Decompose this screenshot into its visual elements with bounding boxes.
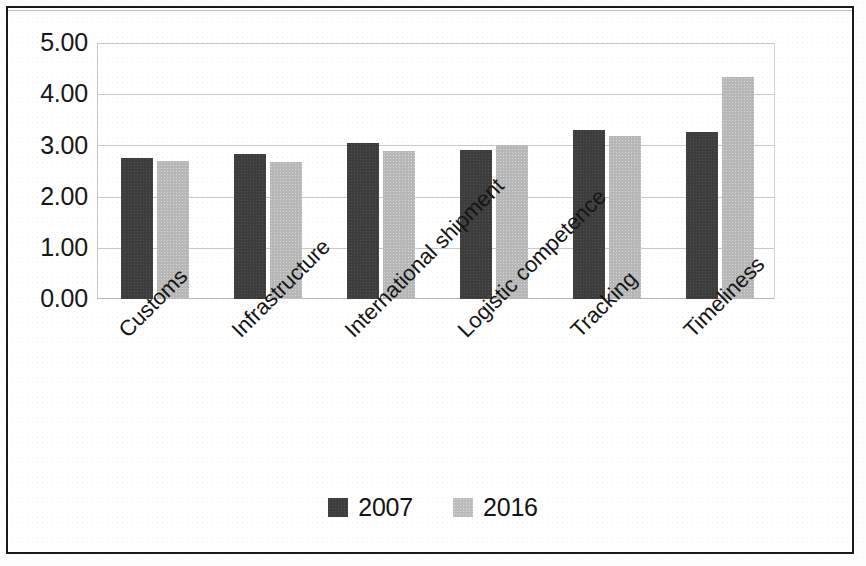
bar-2016-international-shipment	[383, 151, 415, 299]
plot-area	[97, 43, 775, 299]
grouped-bar-chart: 5.00 4.00 3.00 2.00 1.00 0.00 CustomsInf…	[0, 0, 866, 566]
bar-2007-international-shipment	[347, 143, 379, 299]
bar-2007-logistic-competence	[460, 150, 492, 299]
chart-legend: 2007 2016	[0, 495, 866, 520]
bar-2016-timeliness	[722, 77, 754, 299]
bar-2007-tracking	[573, 130, 605, 299]
bar-2016-tracking	[609, 136, 641, 299]
legend-item-2007: 2007	[328, 495, 413, 520]
bar-2016-logistic-competence	[496, 145, 528, 299]
bar-2007-timeliness	[686, 132, 718, 299]
bar-2007-customs	[121, 158, 153, 299]
y-tick-3: 3.00	[40, 133, 88, 158]
legend-swatch-2016-icon	[453, 498, 473, 517]
legend-item-2016: 2016	[453, 495, 538, 520]
legend-label-2007: 2007	[358, 495, 413, 520]
legend-swatch-2007-icon	[328, 498, 348, 517]
legend-label-2016: 2016	[483, 495, 538, 520]
bar-2016-infrastructure	[270, 162, 302, 299]
y-tick-1: 1.00	[40, 235, 88, 260]
y-tick-4: 4.00	[40, 81, 88, 106]
y-axis-tick-labels: 5.00 4.00 3.00 2.00 1.00 0.00	[14, 0, 88, 566]
y-tick-2: 2.00	[40, 184, 88, 209]
y-tick-5: 5.00	[40, 30, 88, 55]
y-tick-0: 0.00	[40, 286, 88, 311]
bar-2016-customs	[157, 161, 189, 299]
bar-2007-infrastructure	[234, 154, 266, 299]
chart-page: 5.00 4.00 3.00 2.00 1.00 0.00 CustomsInf…	[0, 0, 866, 566]
bar-series-container	[98, 43, 774, 299]
